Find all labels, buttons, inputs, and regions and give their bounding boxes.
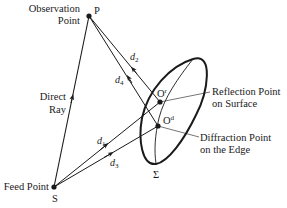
diffraction-point-desc-line2: on the Edge	[200, 144, 250, 155]
ray-d3-label: d3	[110, 157, 119, 170]
reflection-point-symbol: Or	[157, 87, 168, 99]
point-P-label: P	[94, 5, 100, 16]
feed-point-dot	[51, 184, 56, 189]
observation-point-label-line2: Point	[58, 15, 80, 26]
ray-d2-line	[89, 16, 160, 102]
reflection-point-dot	[157, 99, 162, 104]
ray-d1-label: d1	[97, 135, 106, 148]
feed-point-label: Feed Point	[4, 181, 49, 192]
reflector-ray-diagram: Observation Point P Direct Ray d1 d3 d2 …	[0, 0, 287, 208]
observation-point-dot	[86, 13, 91, 18]
reflector-surface-outline	[141, 58, 207, 164]
ray-d4-line	[89, 16, 158, 126]
direct-ray-label-line1: Direct	[40, 91, 66, 102]
ray-d4-label: d4	[115, 74, 124, 87]
point-S-label: S	[52, 193, 58, 204]
reflection-point-desc-line2: on Surface	[212, 98, 258, 109]
reflector-meridian-curve	[155, 59, 193, 164]
diffraction-point-symbol: Od	[163, 114, 175, 126]
direct-ray-label-line2: Ray	[49, 104, 67, 115]
diffraction-point-leader	[158, 126, 199, 137]
observation-point-label-line1: Observation	[29, 3, 81, 14]
ray-d1-line	[54, 102, 160, 187]
ray-d2-label: d2	[130, 51, 139, 64]
diffraction-point-dot	[155, 123, 160, 128]
ray-d2-arrow	[133, 69, 137, 74]
diffraction-point-desc-line1: Diffraction Point	[200, 132, 271, 143]
surface-sigma-label: Σ	[153, 169, 159, 180]
reflection-point-desc-line1: Reflection Point	[212, 86, 281, 97]
